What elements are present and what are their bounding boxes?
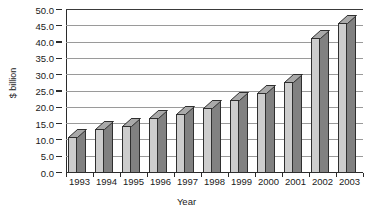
bar-front-face: [311, 38, 320, 173]
x-axis-tick-label: 1995: [120, 176, 147, 187]
y-axis-tick-mark: [56, 58, 62, 59]
y-axis-tick-mark: [56, 9, 62, 10]
bar-side-face: [131, 118, 140, 173]
x-axis-tick-label: 1997: [174, 176, 201, 187]
y-axis-tick-label: 45.0: [36, 22, 55, 32]
y-axis-tick-mark: [56, 156, 62, 157]
x-axis-tick-label: 1996: [147, 176, 174, 187]
bar: [230, 92, 248, 173]
y-axis-tick-label: 25.0: [36, 87, 55, 97]
bar: [203, 100, 221, 173]
bar: [338, 15, 356, 173]
bar: [95, 121, 113, 173]
x-axis-tick-label: 2002: [309, 176, 336, 187]
x-axis-tick-label: 1998: [201, 176, 228, 187]
x-axis-tick-label: 2001: [282, 176, 309, 187]
bar-front-face: [176, 114, 185, 173]
bar-side-face: [158, 110, 167, 173]
y-axis-tick-label: 15.0: [36, 120, 55, 130]
y-axis-tick-mark: [56, 74, 62, 75]
y-axis-tick-mark: [56, 25, 62, 26]
plot-area: [66, 10, 363, 173]
bar: [257, 85, 275, 173]
y-axis-tick-label: 30.0: [36, 71, 55, 81]
bar-front-face: [203, 108, 212, 173]
y-axis-tick-label: 35.0: [36, 54, 55, 64]
bar-side-face: [239, 92, 248, 173]
bar-front-face: [338, 23, 347, 173]
y-axis-tick-labels: 0.05.010.015.020.025.030.035.040.045.050…: [0, 10, 62, 173]
bar-side-face: [320, 30, 329, 173]
bar: [68, 129, 86, 173]
bar: [284, 74, 302, 173]
x-axis-tick-label: 1994: [93, 176, 120, 187]
y-axis-tick-label: 40.0: [36, 38, 55, 48]
bar: [176, 106, 194, 173]
bar-front-face: [95, 129, 104, 173]
y-axis-tick-mark: [56, 90, 62, 91]
bar-side-face: [77, 129, 86, 173]
y-axis-tick-label: 5.0: [41, 152, 54, 162]
bar-side-face: [266, 85, 275, 173]
y-axis-tick-mark: [56, 41, 62, 42]
y-axis-tick-label: 20.0: [36, 103, 55, 113]
bar-side-face: [293, 74, 302, 173]
x-axis-tick-label: 2000: [255, 176, 282, 187]
bar: [149, 110, 167, 173]
bar-front-face: [68, 137, 77, 173]
bar-chart: $ billion 0.05.010.015.020.025.030.035.0…: [0, 0, 373, 224]
x-axis-tick-label: 1999: [228, 176, 255, 187]
x-axis-tick-label: 2003: [336, 176, 363, 187]
y-axis-tick-mark: [56, 172, 62, 173]
y-axis-tick-label: 10.0: [36, 136, 55, 146]
bar-side-face: [104, 121, 113, 173]
x-axis-tick-label: 1993: [66, 176, 93, 187]
bar-front-face: [284, 82, 293, 173]
x-axis-tick-labels: 1993199419951996199719981999200020012002…: [66, 176, 363, 190]
x-axis-title: Year: [0, 196, 373, 207]
bar-front-face: [257, 93, 266, 173]
y-axis-tick-mark: [56, 123, 62, 124]
bar-front-face: [122, 126, 131, 173]
x-axis-tick-mark: [363, 173, 364, 177]
bar: [311, 30, 329, 173]
bar-side-face: [347, 15, 356, 173]
y-axis-tick-mark: [56, 139, 62, 140]
bar-series: [66, 10, 363, 173]
y-axis-tick-label: 0.0: [41, 169, 54, 179]
bar: [122, 118, 140, 173]
bar-side-face: [212, 100, 221, 173]
bar-front-face: [230, 100, 239, 173]
y-axis-tick-label: 50.0: [36, 6, 55, 16]
bar-side-face: [185, 106, 194, 173]
bar-front-face: [149, 118, 158, 173]
y-axis-tick-mark: [56, 107, 62, 108]
